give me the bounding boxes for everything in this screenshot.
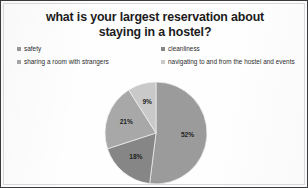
- chart-title-line-2: staying in a hostel?: [15, 25, 295, 40]
- legend-swatch-cleanliness: [161, 47, 165, 51]
- legend-swatch-safety: [17, 47, 21, 51]
- legend-item-sharing-room[interactable]: sharing a room with strangers: [17, 58, 109, 66]
- pie-slice-label: 52%: [181, 131, 194, 138]
- chart-title-line-1: what is your largest reservation about: [15, 10, 295, 25]
- chart-legend: safety cleanliness sharing a room with s…: [17, 45, 295, 71]
- legend-item-cleanliness[interactable]: cleanliness: [161, 45, 200, 53]
- pie-slice-label: 21%: [120, 118, 133, 125]
- pie-slice[interactable]: [150, 82, 207, 184]
- pie-slice-label: 9%: [142, 98, 152, 105]
- legend-item-safety[interactable]: safety: [17, 45, 41, 53]
- legend-swatch-sharing-room: [17, 60, 21, 64]
- chart-title: what is your largest reservation about s…: [15, 10, 295, 39]
- legend-swatch-navigating: [161, 60, 165, 64]
- pie-slice-label: 18%: [129, 153, 142, 160]
- legend-label-sharing-room: sharing a room with strangers: [24, 58, 109, 66]
- chart-frame: what is your largest reservation about s…: [0, 0, 308, 188]
- pie-chart: 52%18%21%9%: [104, 81, 208, 185]
- legend-label-navigating: navigating to and from the hostel and ev…: [168, 58, 295, 66]
- legend-label-safety: safety: [24, 45, 41, 53]
- pie-chart-svg: 52%18%21%9%: [104, 81, 208, 185]
- legend-label-cleanliness: cleanliness: [168, 45, 200, 53]
- legend-item-navigating[interactable]: navigating to and from the hostel and ev…: [161, 58, 295, 66]
